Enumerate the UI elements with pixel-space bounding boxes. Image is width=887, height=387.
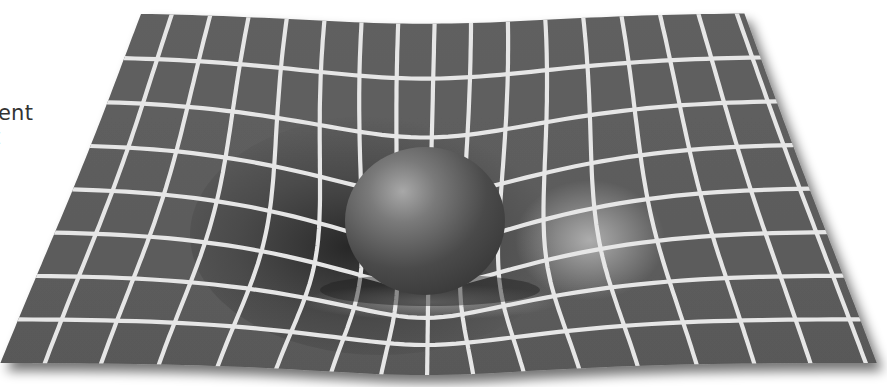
gravity-well-illustration [0, 0, 887, 387]
massive-sphere [345, 147, 505, 295]
sphere [345, 147, 505, 295]
caption-fragment-line-1: ent [0, 103, 33, 124]
